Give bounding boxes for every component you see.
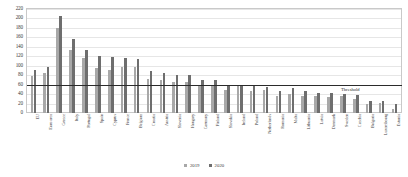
- bar-2020: [330, 93, 333, 113]
- x-axis-label: Sweden: [344, 114, 349, 127]
- y-axis-tick: 200: [16, 14, 23, 20]
- x-axis-label: Spain: [99, 114, 104, 123]
- y-axis-tick: 40: [18, 90, 23, 96]
- x-axis-label: EU: [35, 114, 40, 120]
- x-axis-label: Finland: [215, 114, 220, 126]
- threshold-label: Threshold: [341, 87, 360, 92]
- y-axis-tick: 120: [16, 52, 23, 58]
- bar-2020: [343, 94, 346, 113]
- x-axis-label: Czechia: [357, 114, 362, 127]
- bar-2020: [356, 95, 359, 113]
- x-axis-label: Greece: [61, 114, 66, 126]
- x-axis-label: Austria: [164, 114, 169, 126]
- y-axis-tick: 180: [16, 24, 23, 30]
- bar-2020: [150, 71, 153, 113]
- y-axis: 020406080100120140160180200220: [0, 8, 26, 113]
- x-axis-label: Euro area: [48, 114, 53, 130]
- legend-item-2020: 2020: [209, 163, 225, 168]
- y-axis-tick: 20: [18, 100, 23, 106]
- bar-2020: [304, 91, 307, 113]
- y-axis-tick: 100: [16, 62, 23, 68]
- bar-2020: [253, 86, 256, 113]
- threshold-line: [27, 85, 402, 86]
- y-axis-tick: 0: [21, 109, 23, 115]
- x-axis-label: Slovakia: [228, 114, 233, 128]
- legend-label-2020: 2020: [215, 163, 225, 168]
- x-axis-label: Romania: [280, 114, 285, 129]
- bar-2020: [85, 50, 88, 113]
- bar-2020: [292, 88, 295, 113]
- x-axis-label: Belgium: [138, 114, 143, 128]
- x-axis-labels: EUEuro areaGreeceItalyPortugalSpainCypru…: [27, 114, 401, 158]
- legend-label-2019: 2019: [190, 163, 200, 168]
- y-axis-tick: 60: [18, 81, 23, 87]
- x-axis-label: France: [125, 114, 130, 125]
- x-axis-label: Croatia: [151, 114, 156, 126]
- x-axis-label: Denmark: [331, 114, 336, 129]
- bar-2020: [369, 101, 372, 113]
- bar-2020: [72, 39, 75, 113]
- y-axis-tick: 80: [18, 71, 23, 77]
- bar-2020: [240, 85, 243, 113]
- x-axis-label: Lithuania: [306, 114, 311, 130]
- legend-swatch-2020: [209, 164, 213, 168]
- x-axis-label: Bulgaria: [370, 114, 375, 128]
- x-axis-label: Malta: [293, 114, 298, 124]
- bar-2020: [47, 67, 50, 113]
- y-axis-tick: 140: [16, 43, 23, 49]
- bar-2020: [163, 73, 166, 113]
- bar-2020: [227, 85, 230, 113]
- bar-2020: [395, 104, 398, 113]
- bar-2020: [382, 101, 385, 113]
- bar-2020: [266, 87, 269, 113]
- x-axis-label: Germany: [203, 114, 208, 129]
- chart-legend: 2019 2020: [0, 163, 408, 168]
- bar-2020: [279, 91, 282, 113]
- bar-2020: [176, 75, 179, 113]
- y-axis-tick: 220: [16, 5, 23, 11]
- legend-item-2019: 2019: [184, 163, 200, 168]
- x-axis-label: Cyprus: [112, 114, 117, 126]
- bar-2020: [59, 16, 62, 113]
- x-axis-label: Slovenia: [177, 114, 182, 128]
- x-axis-label: Italy: [74, 114, 79, 121]
- debt-to-gdp-bar-chart: 020406080100120140160180200220 Threshold…: [0, 0, 408, 177]
- x-axis-label: Hungary: [190, 114, 195, 128]
- bar-2020: [317, 93, 320, 113]
- x-axis-label: Netherlands: [267, 114, 272, 134]
- x-axis-label: Latvia: [319, 114, 324, 124]
- bar-2020: [188, 75, 191, 113]
- y-axis-tick: 160: [16, 33, 23, 39]
- bar-2020: [34, 70, 37, 113]
- bars-layer: [27, 9, 401, 113]
- x-axis-label: Luxembourg: [383, 114, 388, 135]
- x-axis-label: Portugal: [86, 114, 91, 128]
- x-axis-label: Ireland: [241, 114, 246, 125]
- legend-swatch-2019: [184, 164, 188, 168]
- x-axis-label: Estonia: [396, 114, 401, 126]
- x-axis-label: Poland: [254, 114, 259, 125]
